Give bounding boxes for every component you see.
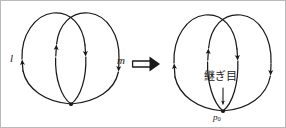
loop-l-left-arrowhead — [22, 61, 23, 71]
loop-m-top-arc — [57, 13, 119, 59]
basepoint-label: p0 — [213, 113, 221, 123]
right-loop-m-top-arc — [209, 15, 271, 63]
figure-container: l m 継ぎ目 p0 — [0, 0, 286, 128]
right-loop-m-inner-arrowhead — [208, 50, 209, 60]
loop-l-top-arc — [22, 13, 85, 59]
right-loop-l-inner-descend — [237, 49, 238, 59]
basepoint-subscript: 0 — [218, 115, 221, 122]
loop-m-inner-ascend — [56, 58, 71, 104]
loop-m-right-close — [71, 72, 118, 104]
right-loop-l-top-arc — [174, 15, 237, 63]
loop-l-left-ascend — [23, 71, 71, 104]
loop-label-l: l — [10, 53, 13, 64]
right-basepoint-dot — [221, 109, 225, 113]
loop-l-inner-descend — [85, 45, 86, 55]
right-loop-l-inner-close — [223, 61, 238, 111]
left-basepoint-dot — [69, 102, 73, 106]
seam-label: 継ぎ目 — [204, 71, 237, 82]
loop-label-m: m — [117, 55, 125, 66]
implication-arrow-icon — [133, 57, 160, 72]
left-panel-group — [22, 13, 119, 106]
right-panel-group — [174, 15, 271, 113]
diagram-canvas — [1, 1, 286, 128]
right-loop-l-left-arrowhead — [174, 65, 175, 77]
loop-m-inner-arrowhead — [56, 46, 57, 56]
loop-l-inner-close — [71, 57, 86, 104]
